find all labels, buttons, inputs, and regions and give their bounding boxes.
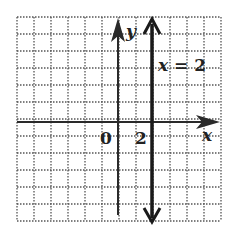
y-axis-label: y: [125, 21, 137, 41]
origin-label: 0: [100, 128, 112, 148]
tick-label-2: 2: [135, 128, 147, 148]
coordinate-plane: y x 0 2 x = 2: [0, 0, 228, 232]
x-axis-label: x: [201, 125, 213, 145]
line-equation-label: x = 2: [157, 55, 206, 75]
